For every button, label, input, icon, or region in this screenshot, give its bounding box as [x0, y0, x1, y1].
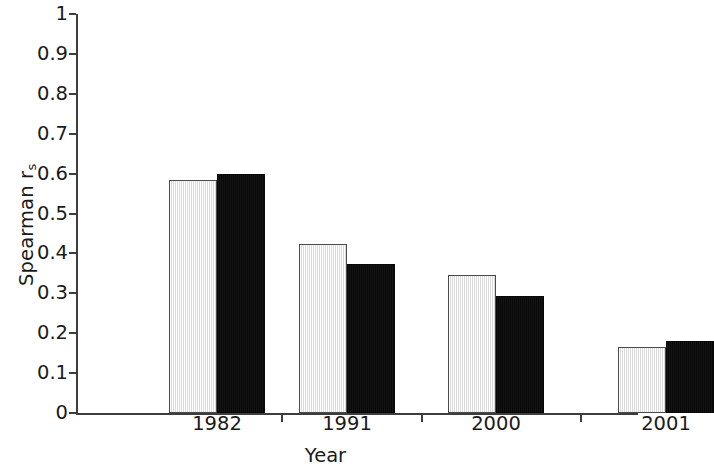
x-tick-label: 1991	[322, 414, 372, 434]
y-axis-tick	[69, 412, 76, 414]
y-tick-label: 0.7	[24, 124, 68, 144]
y-axis-tick	[69, 292, 76, 294]
y-axis-tick	[69, 332, 76, 334]
y-axis-tick	[69, 173, 76, 175]
x-tick-label: 1982	[192, 414, 242, 434]
bar-light-1982	[169, 180, 217, 413]
y-tick-label: 0.9	[24, 44, 68, 64]
bar-light-1991	[299, 244, 347, 413]
y-axis-line	[76, 14, 78, 414]
x-axis-tick	[421, 415, 423, 422]
x-tick-label: 2000	[471, 414, 521, 434]
y-axis-tick	[69, 133, 76, 135]
x-tick-label: 2001	[641, 414, 691, 434]
y-axis-tick	[69, 213, 76, 215]
bar-dark-1991	[347, 264, 395, 413]
x-axis-tick	[580, 415, 582, 422]
bar-dark-1982	[217, 174, 265, 413]
y-axis-tick	[69, 53, 76, 55]
y-tick-label: 0.8	[24, 84, 68, 104]
plot-area	[76, 14, 638, 413]
bar-dark-2000	[496, 296, 544, 413]
y-tick-label: 0.4	[24, 243, 68, 263]
bar-dark-2001	[666, 341, 714, 413]
y-axis-tick	[69, 372, 76, 374]
y-tick-label: 1	[24, 4, 68, 24]
y-axis-tick	[69, 93, 76, 95]
y-axis-tick	[69, 252, 76, 254]
y-tick-label: 0	[24, 403, 68, 423]
y-tick-label: 0.2	[24, 323, 68, 343]
bar-light-2001	[618, 347, 666, 413]
y-tick-label-group: 10.90.80.70.60.50.40.30.20.10	[24, 0, 68, 471]
y-tick-label: 0.3	[24, 283, 68, 303]
x-axis-title: Year	[0, 446, 651, 466]
x-axis-tick	[281, 415, 283, 422]
y-axis-tick	[69, 13, 76, 15]
y-tick-label: 0.1	[24, 363, 68, 383]
bar-light-2000	[448, 275, 496, 413]
y-tick-label: 0.5	[24, 204, 68, 224]
y-tick-label: 0.6	[24, 164, 68, 184]
